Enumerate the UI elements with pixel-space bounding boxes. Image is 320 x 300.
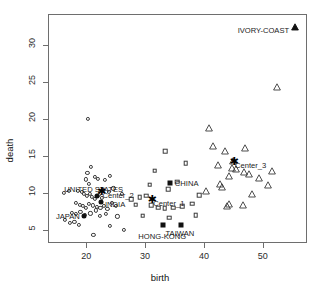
data-point-cluster-3-triangles xyxy=(205,118,213,126)
cluster-center-label-center_2: Center_2 xyxy=(103,192,134,200)
data-point-cluster-3-triangles xyxy=(248,184,256,192)
y-axis-tick xyxy=(43,119,48,120)
y-axis-label-text: death xyxy=(5,138,16,162)
data-point-cluster-1-circles xyxy=(77,222,81,226)
x-axis-label: birth xyxy=(0,272,320,283)
data-point-cluster-1-circles xyxy=(91,233,95,237)
y-axis-tick-label: 10 xyxy=(24,186,40,196)
data-point-cluster-1-circles xyxy=(104,212,108,216)
data-point-cluster-3-triangles xyxy=(209,136,217,144)
data-point-cluster-3-triangles xyxy=(214,155,222,163)
data-point-highlighted xyxy=(81,213,86,218)
data-point-cluster-1-circles xyxy=(85,171,89,175)
data-point-cluster-2-squares xyxy=(190,202,195,207)
data-point-cluster-2-squares xyxy=(140,213,145,218)
data-point-cluster-2-squares xyxy=(163,149,168,154)
x-axis-tick-label: 40 xyxy=(199,251,209,261)
data-point-cluster-2-squares xyxy=(166,187,171,192)
y-axis-label: death xyxy=(4,0,16,300)
data-point-cluster-2-squares xyxy=(138,195,143,200)
data-point-cluster-3-triangles xyxy=(221,141,229,149)
x-axis-tick xyxy=(145,243,146,248)
data-point-cluster-3-triangles xyxy=(273,77,281,85)
data-point-cluster-3-triangles xyxy=(241,138,249,146)
y-axis-tick xyxy=(43,45,48,46)
data-point-cluster-1-circles xyxy=(96,177,100,181)
x-axis-tick-label: 30 xyxy=(140,251,150,261)
y-axis-tick-label: 25 xyxy=(24,75,40,85)
data-point-highlighted xyxy=(161,223,166,228)
data-point-cluster-3-triangles xyxy=(216,174,224,182)
data-point-cluster-2-squares xyxy=(152,168,157,173)
cluster-center-label-center_1: Center_1 xyxy=(153,200,184,208)
point-label-japan: JAPAN xyxy=(56,213,80,221)
data-point-cluster-1-circles xyxy=(68,221,72,225)
data-point-cluster-2-squares xyxy=(193,213,198,218)
data-point-cluster-1-circles xyxy=(94,208,98,212)
point-label-ivory-coast: IVORY-COAST xyxy=(238,27,289,35)
data-point-highlighted xyxy=(98,200,103,205)
cluster-center-label-center_3: Center_3 xyxy=(235,162,266,170)
y-axis-tick xyxy=(43,193,48,194)
data-point-cluster-2-squares xyxy=(167,216,172,221)
data-point-cluster-3-triangles xyxy=(239,195,247,203)
data-point-cluster-2-squares xyxy=(183,161,188,166)
data-point-cluster-2-squares xyxy=(148,182,153,187)
y-axis-tick-label: 30 xyxy=(24,38,40,48)
data-point-cluster-1-circles xyxy=(108,174,112,178)
y-axis-tick-label: 20 xyxy=(24,112,40,122)
point-label-china: CHINA xyxy=(175,180,199,188)
data-point-cluster-3-triangles xyxy=(264,175,272,183)
data-point-cluster-1-circles xyxy=(88,211,92,215)
y-axis-tick xyxy=(43,230,48,231)
data-point-cluster-1-circles xyxy=(84,177,88,181)
y-axis-tick xyxy=(43,82,48,83)
data-point-cluster-1-circles xyxy=(98,214,102,218)
data-point-highlighted xyxy=(179,223,184,228)
data-point-cluster-1-circles xyxy=(115,214,119,218)
x-axis-tick-label: 20 xyxy=(81,251,91,261)
data-point-cluster-3-triangles xyxy=(268,161,276,169)
data-point-cluster-3-triangles xyxy=(223,196,231,204)
point-label-india: INDIA xyxy=(105,201,125,209)
plot-data-area: IVORY-COASTUNITED STATESJAPANINDIACHINAT… xyxy=(48,14,307,243)
x-axis-tick-label: 50 xyxy=(258,251,268,261)
data-point-cluster-3-triangles xyxy=(202,181,210,189)
x-axis-tick xyxy=(204,243,205,248)
data-point-cluster-1-circles xyxy=(103,178,107,182)
data-point-cluster-1-circles xyxy=(89,165,93,169)
x-axis-tick xyxy=(86,243,87,248)
data-point-cluster-1-circles xyxy=(86,117,90,121)
data-point-highlighted xyxy=(291,17,299,25)
data-point-cluster-2-squares xyxy=(133,202,138,207)
scatter-plot-figure: IVORY-COASTUNITED STATESJAPANINDIACHINAT… xyxy=(0,0,320,300)
x-axis-tick xyxy=(263,243,264,248)
data-point-highlighted xyxy=(167,181,172,186)
point-label-hong-kong: HONG-KONG xyxy=(138,233,186,241)
y-axis-tick xyxy=(43,156,48,157)
y-axis-tick-label: 15 xyxy=(24,149,40,159)
data-point-cluster-1-circles xyxy=(84,205,88,209)
data-point-cluster-1-circles xyxy=(122,228,126,232)
y-axis-tick-label: 5 xyxy=(24,223,40,233)
data-point-cluster-1-circles xyxy=(108,224,112,228)
